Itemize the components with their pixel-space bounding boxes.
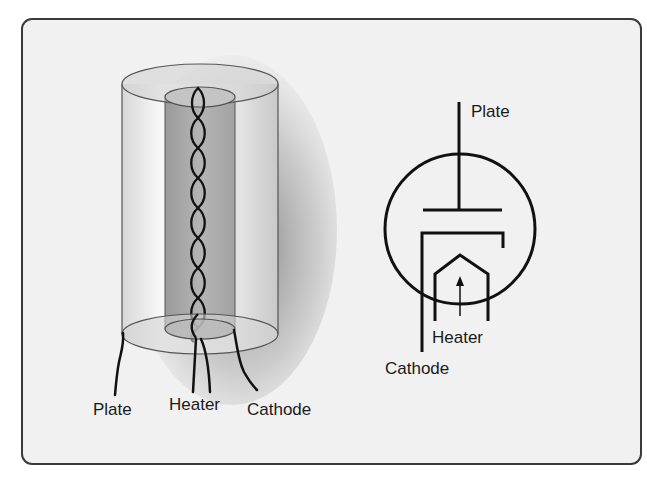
schematic-symbol [385, 102, 535, 352]
cutaway-diagram: Plate Heater Cathode [93, 55, 337, 419]
label-plate-schematic: Plate [471, 102, 510, 121]
label-heater-schematic: Heater [432, 328, 483, 347]
label-cathode-3d: Cathode [247, 400, 311, 419]
label-plate-3d: Plate [93, 400, 132, 419]
plate-lead [115, 333, 123, 395]
tube-diagram: Plate Heater Cathode Plate Heater Cathod… [0, 0, 647, 477]
label-cathode-schematic: Cathode [385, 359, 449, 378]
heater-element [435, 255, 488, 321]
arrow-head-icon [456, 276, 464, 286]
label-heater-3d: Heater [169, 395, 220, 414]
